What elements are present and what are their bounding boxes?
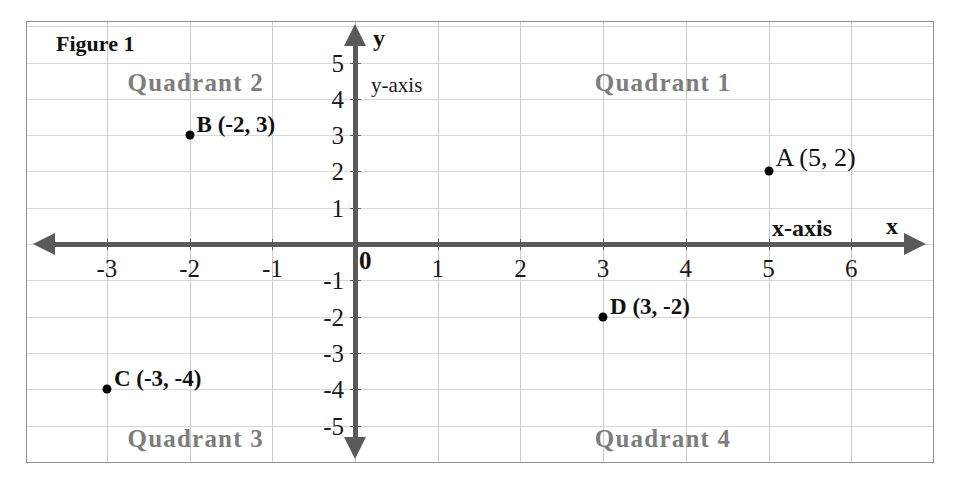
grid-line-horizontal [27,280,933,281]
grid-line-horizontal [27,26,933,27]
y-tick-mark [350,353,361,354]
quadrant-label: Quadrant 2 [128,70,264,95]
y-axis-label: y-axis [371,75,422,96]
y-tick-label: 2 [332,159,345,184]
grid-line-horizontal [27,135,933,136]
data-point-label-b: B (-2, 3) [197,113,276,136]
y-tick-label: 4 [332,86,345,111]
data-point-d [599,312,608,321]
x-tick-mark [851,239,852,250]
x-tick-label: 6 [845,256,858,281]
x-tick-mark [107,239,108,250]
x-tick-label: 3 [597,256,610,281]
y-tick-mark [350,208,361,209]
x-tick-mark [769,239,770,250]
x-axis-arrow-right-icon [904,233,926,255]
x-axis-label: x-axis [772,216,832,240]
grid-line-horizontal [27,353,933,354]
y-tick-mark [350,426,361,427]
data-point-label-d: D (3, -2) [610,295,690,318]
data-point-a [764,167,773,176]
x-tick-mark [272,239,273,250]
x-axis-arrow-label: x [886,214,898,238]
y-tick-label: -1 [323,268,344,293]
y-tick-mark [350,135,361,136]
y-tick-label: -4 [323,377,344,402]
data-point-b [185,131,194,140]
y-tick-label: -5 [323,413,344,438]
y-tick-label: 1 [332,195,345,220]
y-axis-line [353,44,358,439]
data-point-label-c: C (-3, -4) [114,367,202,390]
x-tick-mark [438,239,439,250]
x-tick-label: -3 [96,256,117,281]
x-tick-label: 5 [762,256,775,281]
x-tick-label: -2 [179,256,200,281]
x-tick-label: 4 [680,256,693,281]
grid-line-horizontal [27,208,933,209]
origin-label: 0 [359,248,372,273]
x-tick-mark [190,239,191,250]
y-tick-mark [350,317,361,318]
y-axis-arrow-up-icon [344,24,366,46]
x-tick-label: 2 [514,256,527,281]
x-axis-arrow-left-icon [33,233,55,255]
y-tick-mark [350,280,361,281]
y-tick-mark [350,99,361,100]
quadrant-label: Quadrant 4 [595,426,731,451]
y-tick-label: -3 [323,340,344,365]
y-tick-label: -2 [323,304,344,329]
y-tick-label: 3 [332,123,345,148]
y-tick-mark [350,171,361,172]
plot-frame: -3-2-112345654321-1-2-3-4-5 Quadrant 1Qu… [26,21,934,463]
quadrant-label: Quadrant 3 [128,426,264,451]
y-tick-mark [350,63,361,64]
quadrant-label: Quadrant 1 [595,70,731,95]
coordinate-plane-figure: -3-2-112345654321-1-2-3-4-5 Quadrant 1Qu… [0,0,954,484]
data-point-label-a: A (5, 2) [776,145,856,171]
grid-line-horizontal [27,63,933,64]
x-tick-label: -1 [262,256,283,281]
x-axis-line [53,242,906,247]
x-tick-mark [686,239,687,250]
y-axis-arrow-label: y [373,26,385,50]
figure-title: Figure 1 [56,33,134,55]
y-tick-mark [350,389,361,390]
x-tick-mark [603,239,604,250]
grid-line-horizontal [27,99,933,100]
x-tick-label: 1 [431,256,444,281]
y-tick-label: 5 [332,50,345,75]
data-point-c [102,385,111,394]
grid-line-horizontal [27,317,933,318]
y-axis-arrow-down-icon [344,437,366,459]
x-tick-mark [520,239,521,250]
